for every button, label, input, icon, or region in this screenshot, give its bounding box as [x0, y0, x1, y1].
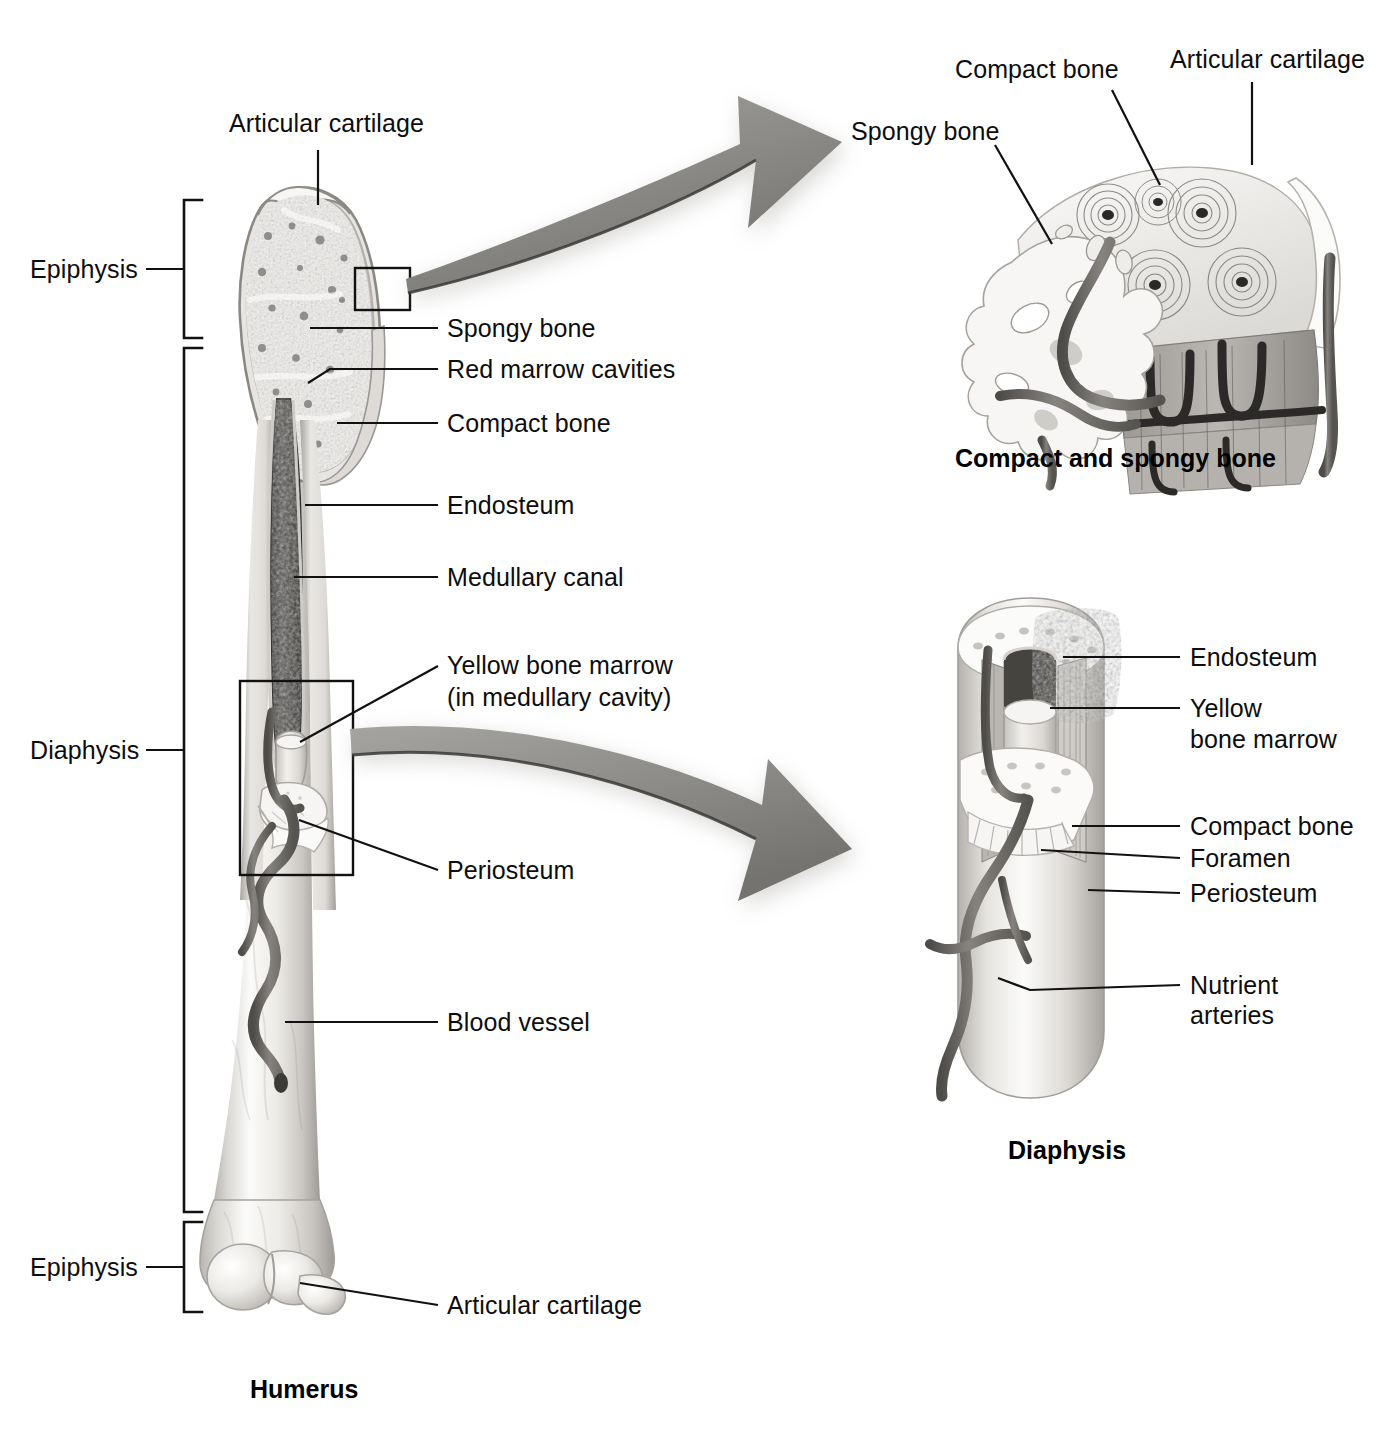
label-inset-spongy-bone: Spongy bone	[851, 116, 999, 146]
label-yellow-bone-marrow-sub: (in medullary cavity)	[447, 682, 671, 712]
label-inset-foramen: Foramen	[1190, 843, 1291, 873]
bracket-diaphysis	[184, 348, 202, 1212]
condyle-lateral-lip	[298, 1275, 345, 1314]
label-articular-cartilage-bottom: Articular cartilage	[447, 1290, 642, 1320]
label-inset-compact-bone2: Compact bone	[1190, 811, 1354, 841]
label-inset-articular-cartilage: Articular cartilage	[1170, 44, 1365, 74]
label-inset-nutrient: Nutrient	[1190, 970, 1278, 1000]
label-inset-endosteum: Endosteum	[1190, 642, 1317, 672]
caption-compact-and-spongy-bone: Compact and spongy bone	[955, 444, 1276, 473]
label-blood-vessel: Blood vessel	[447, 1007, 590, 1037]
leader-spongy-bone-inset	[995, 145, 1052, 244]
caption-diaphysis: Diaphysis	[1008, 1136, 1126, 1165]
leader-compact-bone-inset	[1112, 90, 1160, 185]
bracket-epiphysis-distal	[184, 1222, 202, 1312]
caption-humerus: Humerus	[250, 1375, 358, 1404]
label-articular-cartilage-top: Articular cartilage	[229, 108, 424, 138]
callout-arrow-diaphysis	[350, 726, 856, 908]
label-red-marrow-cavities: Red marrow cavities	[447, 354, 675, 384]
label-spongy-bone: Spongy bone	[447, 313, 595, 343]
periosteal-vessel-inset	[1324, 258, 1333, 472]
label-inset-periosteum: Periosteum	[1190, 878, 1317, 908]
bracket-epiphysis-proximal	[184, 200, 202, 338]
brackets	[146, 200, 202, 1312]
bone-artwork	[0, 0, 1389, 1430]
label-periosteum: Periosteum	[447, 855, 574, 885]
label-yellow-bone-marrow: Yellow bone marrow	[447, 650, 673, 680]
callout-arrow-epiphysis	[406, 96, 846, 300]
vessel-tip	[274, 1073, 288, 1093]
label-inset-arteries: arteries	[1190, 1000, 1274, 1030]
label-inset-yellow: Yellow	[1190, 693, 1262, 723]
figure-canvas: Epiphysis Diaphysis Epiphysis Articular …	[0, 0, 1389, 1430]
inset-diaphysis	[930, 598, 1124, 1098]
bracket-label-epiphysis-distal: Epiphysis	[30, 1252, 138, 1282]
bracket-label-diaphysis: Diaphysis	[30, 735, 139, 765]
label-inset-bone-marrow: bone marrow	[1190, 724, 1337, 754]
bracket-label-epiphysis-proximal: Epiphysis	[30, 254, 138, 284]
label-compact-bone: Compact bone	[447, 408, 611, 438]
label-endosteum: Endosteum	[447, 490, 574, 520]
label-medullary-canal: Medullary canal	[447, 562, 624, 592]
label-inset-compact-bone: Compact bone	[955, 54, 1119, 84]
